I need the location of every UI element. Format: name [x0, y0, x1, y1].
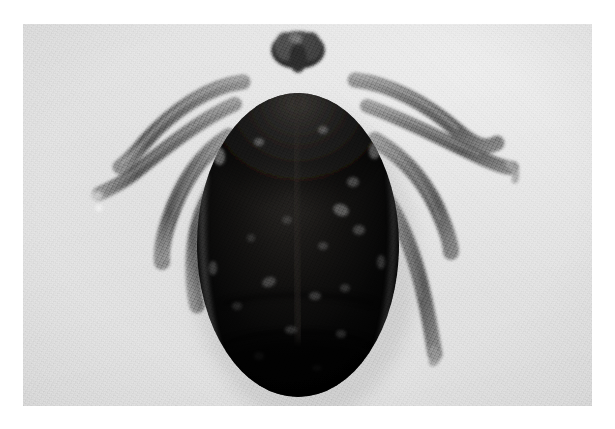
film-grain-fine: [23, 24, 592, 406]
page-root: [0, 0, 615, 429]
photograph-plate: [23, 24, 592, 406]
